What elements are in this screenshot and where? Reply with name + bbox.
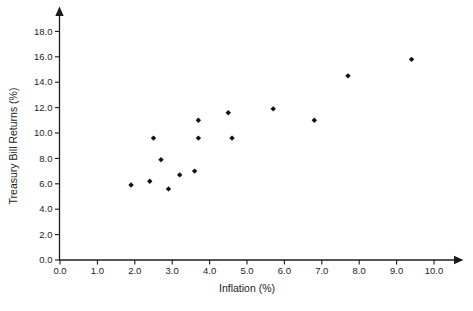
y-tick-label: 4.0 [39, 203, 52, 214]
y-axis-arrow-icon [55, 7, 63, 17]
x-tick-label: 6.0 [278, 265, 291, 276]
x-axis-title: Inflation (%) [219, 282, 275, 294]
y-tick-label: 8.0 [39, 153, 52, 164]
scatter-plot-figure: 0.01.02.03.04.05.06.07.08.09.010.0 0.02.… [0, 0, 473, 311]
y-tick-label: 18.0 [34, 26, 53, 37]
y-tick-label: 10.0 [34, 127, 53, 138]
data-point-marker [147, 179, 152, 184]
data-point-marker [409, 57, 414, 62]
chart-canvas: 0.01.02.03.04.05.06.07.08.09.010.0 0.02.… [0, 0, 473, 311]
data-point-marker [166, 186, 171, 191]
x-tick-label: 1.0 [91, 265, 104, 276]
y-tick-label: 6.0 [39, 178, 52, 189]
data-point-marker [177, 172, 182, 177]
y-tick-label: 14.0 [34, 76, 53, 87]
data-point-marker [192, 168, 197, 173]
data-point-marker [270, 106, 275, 111]
x-tick-label: 3.0 [166, 265, 179, 276]
x-tick-label: 2.0 [128, 265, 141, 276]
data-point-marker [226, 110, 231, 115]
x-axis-arrow-icon [454, 256, 464, 264]
data-point-marker [151, 135, 156, 140]
x-tick-label: 9.0 [390, 265, 403, 276]
x-tick-label: 0.0 [53, 265, 66, 276]
x-tick-label: 4.0 [203, 265, 216, 276]
data-point-marker [196, 135, 201, 140]
data-point-marker [128, 182, 133, 187]
x-tick-label: 10.0 [425, 265, 444, 276]
y-axis-ticks: 0.02.04.06.08.010.012.014.016.018.0 [34, 26, 60, 266]
x-tick-label: 7.0 [315, 265, 328, 276]
y-axis-title: Treasury Bill Returns (%) [7, 88, 19, 205]
y-tick-label: 0.0 [39, 254, 52, 265]
x-tick-label: 8.0 [353, 265, 366, 276]
data-point-marker [345, 73, 350, 78]
data-point-marker [312, 118, 317, 123]
data-point-marker [196, 118, 201, 123]
y-tick-label: 2.0 [39, 229, 52, 240]
x-axis-ticks: 0.01.02.03.04.05.06.07.08.09.010.0 [53, 260, 443, 276]
x-tick-label: 5.0 [240, 265, 253, 276]
data-point-marker [229, 135, 234, 140]
y-tick-label: 16.0 [34, 51, 53, 62]
data-point-marker [158, 157, 163, 162]
data-points [128, 57, 414, 192]
y-tick-label: 12.0 [34, 102, 53, 113]
